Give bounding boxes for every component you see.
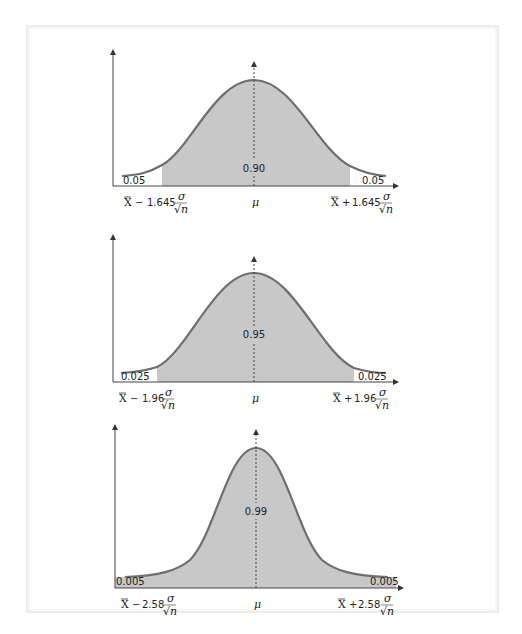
left-tail-label-95: 0.025	[121, 371, 150, 382]
svg-text:√n: √n	[375, 399, 389, 412]
center-area-label-99: 0.99	[245, 506, 267, 517]
svg-text:−: −	[132, 599, 140, 610]
left-bound-label-95: X − 1.96 σ √n	[119, 386, 175, 412]
svg-text:√n: √n	[163, 605, 177, 618]
right-bound-label-90: X + 1.645 σ √n	[331, 190, 393, 216]
right-bound-label-99: X + 2.58 σ √n	[338, 592, 394, 618]
svg-text:X: X	[338, 598, 346, 611]
svg-text:2.58: 2.58	[358, 599, 380, 610]
svg-text:X: X	[124, 196, 132, 209]
mu-label-95: μ	[252, 392, 259, 405]
svg-text:σ: σ	[167, 592, 175, 605]
right-bound-label-95: X + 1.96 σ √n	[333, 386, 389, 412]
mu-label-90: μ	[252, 196, 259, 209]
svg-text:√n: √n	[379, 203, 393, 216]
left-bound-label-99: X − 2.58 σ √n	[121, 592, 177, 618]
svg-text:σ: σ	[165, 386, 173, 399]
svg-text:√n: √n	[174, 203, 188, 216]
confidence-interval-figure: 0.90 0.05 0.05 X − 1.645 σ √n μ X + 1.64…	[0, 0, 522, 634]
svg-text:+: +	[349, 599, 357, 610]
chart-90: 0.90 0.05 0.05 X − 1.645 σ √n μ X + 1.64…	[113, 52, 396, 216]
svg-text:√n: √n	[380, 605, 394, 618]
svg-text:X: X	[331, 196, 339, 209]
mu-label-99: μ	[254, 598, 261, 611]
chart-99: 0.99 0.005 0.005 X − 2.58 σ √n μ X + 2.5…	[115, 427, 401, 618]
svg-text:X: X	[333, 392, 341, 405]
left-tail-label-90: 0.05	[123, 175, 145, 186]
svg-text:−: −	[130, 393, 138, 404]
right-tail-label-99: 0.005	[370, 576, 399, 587]
svg-text:1.645: 1.645	[147, 197, 176, 208]
svg-text:+: +	[344, 393, 352, 404]
right-tail-label-95: 0.025	[358, 371, 387, 382]
left-tail-label-99: 0.005	[116, 576, 145, 587]
svg-text:X: X	[121, 598, 129, 611]
center-area-label-90: 0.90	[243, 163, 265, 174]
svg-text:σ: σ	[383, 190, 391, 203]
svg-text:−: −	[135, 197, 143, 208]
svg-text:σ: σ	[379, 386, 387, 399]
svg-text:√n: √n	[161, 399, 175, 412]
svg-text:σ: σ	[178, 190, 186, 203]
svg-text:2.58: 2.58	[142, 599, 164, 610]
svg-text:1.96: 1.96	[354, 393, 376, 404]
right-tail-label-90: 0.05	[362, 175, 384, 186]
svg-text:+: +	[342, 197, 350, 208]
svg-text:X: X	[119, 392, 127, 405]
left-bound-label-90: X − 1.645 σ √n	[124, 190, 188, 216]
svg-text:σ: σ	[384, 592, 392, 605]
center-area-label-95: 0.95	[243, 329, 265, 340]
svg-text:1.645: 1.645	[352, 197, 381, 208]
chart-95: 0.95 0.025 0.025 X − 1.96 σ √n μ X + 1.9…	[113, 237, 396, 412]
